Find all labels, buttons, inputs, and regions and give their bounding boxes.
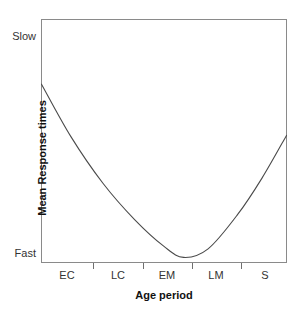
- y-axis-title: Mean Response times: [36, 78, 48, 238]
- x-axis-label-ec: EC: [42, 269, 92, 282]
- x-axis-label-em: EM: [142, 269, 192, 282]
- x-axis-label-s: S: [240, 269, 290, 282]
- x-axis-label-lc: LC: [93, 269, 143, 282]
- y-axis-top-label: Slow: [2, 30, 36, 42]
- plot-area-frame: [41, 19, 287, 263]
- x-axis-title: Age period: [41, 289, 287, 301]
- chart-figure: Slow Fast Mean Response times EC LC EM L…: [0, 0, 303, 311]
- x-axis-label-lm: LM: [191, 269, 241, 282]
- y-axis-bottom-label: Fast: [2, 247, 36, 259]
